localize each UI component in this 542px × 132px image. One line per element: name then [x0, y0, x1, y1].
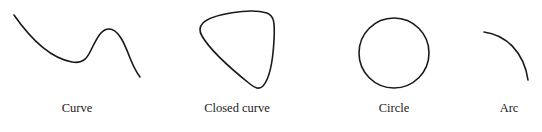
circle-shape [359, 18, 429, 88]
curve-label: Curve [62, 101, 93, 116]
arc-label: Arc [500, 101, 519, 116]
closed-curve-shape [200, 11, 274, 88]
closed-curve-label: Closed curve [204, 101, 270, 116]
curve-shape [14, 15, 140, 77]
geometric-shapes-figure: Curve Closed curve Circle Arc [0, 0, 542, 132]
circle-label: Circle [379, 101, 410, 116]
arc-shape [484, 32, 528, 80]
